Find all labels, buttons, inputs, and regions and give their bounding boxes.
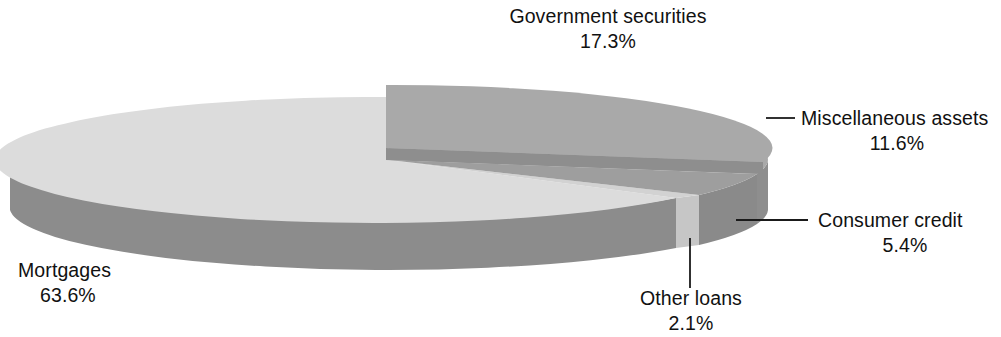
slice-label-miscellaneous-assets-value: 11.6%: [801, 131, 993, 156]
slice-label-other-loans-value: 2.1%: [603, 311, 779, 336]
slice-label-mortgages: Mortgages 63.6%: [18, 258, 196, 308]
slice-label-government-securities: Government securities 17.3%: [478, 4, 738, 54]
slice-label-mortgages-name: Mortgages: [18, 258, 196, 283]
pie-chart: Government securities 17.3% Miscellaneou…: [0, 0, 1001, 337]
slice-label-consumer-credit-value: 5.4%: [818, 233, 992, 258]
slice-label-government-securities-value: 17.3%: [478, 29, 738, 54]
exploded-slice-government-securities: [386, 85, 772, 174]
slice-label-mortgages-value: 63.6%: [18, 283, 196, 308]
slice-side-other-loans: [676, 195, 699, 248]
slice-label-miscellaneous-assets-name: Miscellaneous assets: [801, 106, 1001, 131]
slice-label-government-securities-name: Government securities: [478, 4, 738, 29]
slice-label-consumer-credit: Consumer credit 5.4%: [818, 208, 998, 258]
slice-label-miscellaneous-assets: Miscellaneous assets 11.6%: [801, 106, 1001, 156]
slice-label-consumer-credit-name: Consumer credit: [818, 208, 998, 233]
slice-label-other-loans: Other loans 2.1%: [603, 286, 779, 336]
slice-label-other-loans-name: Other loans: [603, 286, 779, 311]
